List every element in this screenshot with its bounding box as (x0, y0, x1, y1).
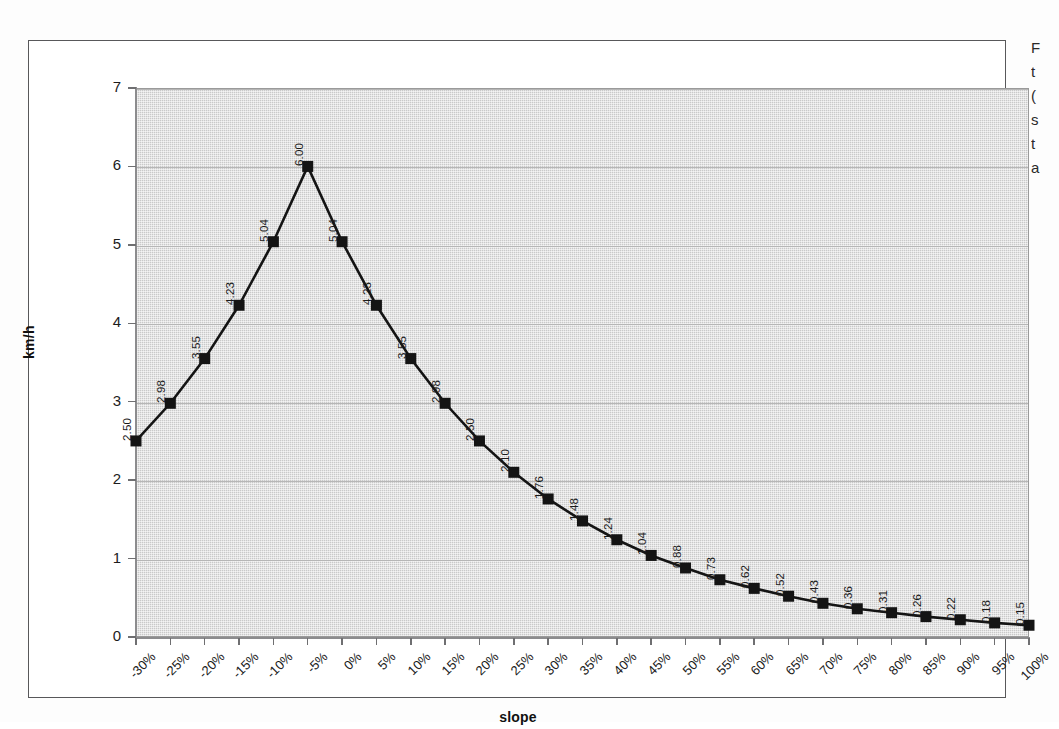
data-point-label: 0.62 (739, 565, 751, 588)
page-side-text-line: t (1031, 132, 1059, 156)
data-point-label: 2.98 (155, 380, 167, 403)
page-side-text-line: F (1031, 36, 1059, 60)
plot-area (136, 88, 1029, 637)
y-axis-tick-label: 4 (81, 313, 121, 330)
page-side-text-line: a (1031, 156, 1059, 180)
y-axis-tick-label: 1 (81, 549, 121, 566)
data-point-label: 1.24 (602, 517, 614, 540)
x-axis-tick (650, 638, 652, 645)
y-axis-tick-label: 0 (81, 627, 121, 644)
y-axis-line (135, 87, 137, 638)
data-point-label: 0.36 (842, 586, 854, 609)
x-axis-tick (376, 638, 378, 645)
y-axis-tick-label: 5 (81, 235, 121, 252)
data-point-label: 0.26 (911, 593, 923, 616)
x-axis-tick (410, 638, 412, 645)
gridline (137, 403, 1028, 404)
page-side-text-line: ( (1031, 84, 1059, 108)
x-axis-tick (1028, 638, 1030, 645)
y-axis-tick (128, 87, 136, 89)
data-point-label: 1.48 (568, 498, 580, 521)
x-axis-tick (753, 638, 755, 645)
x-axis-tick (994, 638, 996, 645)
x-axis-tick (135, 638, 137, 645)
chart-figure-frame: km/h slope 01234567-30%-25%-20%-15%-10%-… (28, 40, 1006, 698)
x-axis-tick (616, 638, 618, 645)
data-point-label: 2.10 (499, 449, 511, 472)
y-axis-tick (128, 323, 136, 325)
page-side-text: Ft(sta (1031, 36, 1059, 180)
y-axis-tick (128, 558, 136, 560)
data-point-label: 5.04 (327, 219, 339, 242)
gridline (137, 246, 1028, 247)
y-axis-tick (128, 166, 136, 168)
data-point-label: 0.18 (980, 600, 992, 623)
x-axis-tick (204, 638, 206, 645)
data-point-label: 0.43 (808, 580, 820, 603)
x-axis-tick (582, 638, 584, 645)
y-axis-tick-label: 2 (81, 470, 121, 487)
y-axis-tick (128, 401, 136, 403)
data-point-label: 6.00 (293, 143, 305, 166)
x-axis-tick (925, 638, 927, 645)
data-point-label: 4.23 (224, 282, 236, 305)
x-axis-tick (444, 638, 446, 645)
x-axis-tick (788, 638, 790, 645)
x-axis-tick (170, 638, 172, 645)
y-axis-title: km/h (21, 325, 37, 359)
data-point-label: 0.88 (671, 545, 683, 568)
x-axis-tick (273, 638, 275, 645)
gridline (137, 167, 1028, 168)
x-axis-tick (857, 638, 859, 645)
data-point-label: 0.73 (705, 557, 717, 580)
y-axis-tick (128, 479, 136, 481)
x-axis-tick (891, 638, 893, 645)
y-axis-tick-label: 6 (81, 156, 121, 173)
page-side-text-line: s (1031, 108, 1059, 132)
x-axis-tick (547, 638, 549, 645)
x-axis-tick (822, 638, 824, 645)
y-axis-tick-label: 3 (81, 392, 121, 409)
y-axis-tick (128, 244, 136, 246)
x-axis-tick (513, 638, 515, 645)
data-point-label: 2.50 (121, 418, 133, 441)
x-axis-tick (719, 638, 721, 645)
data-point-label: 2.50 (464, 418, 476, 441)
gridline (137, 560, 1028, 561)
data-point-label: 5.04 (258, 219, 270, 242)
data-point-label: 1.04 (636, 532, 648, 555)
y-axis-tick-label: 7 (81, 78, 121, 95)
gridline (137, 89, 1028, 90)
data-point-label: 2.98 (430, 380, 442, 403)
data-point-label: 0.52 (774, 573, 786, 596)
data-point-label: 4.23 (361, 282, 373, 305)
data-point-label: 3.55 (396, 335, 408, 358)
gridline (137, 324, 1028, 325)
x-axis-tick (238, 638, 240, 645)
data-point-label: 0.31 (877, 589, 889, 612)
x-axis-tick (960, 638, 962, 645)
x-axis-tick (685, 638, 687, 645)
x-axis-tick (479, 638, 481, 645)
data-point-label: 0.22 (945, 597, 957, 620)
page-side-text-line: t (1031, 60, 1059, 84)
data-point-label: 0.15 (1014, 602, 1026, 625)
gridline (137, 481, 1028, 482)
x-axis-tick (341, 638, 343, 645)
data-point-label: 3.55 (190, 335, 202, 358)
data-point-label: 1.76 (533, 476, 545, 499)
x-axis-tick (307, 638, 309, 645)
